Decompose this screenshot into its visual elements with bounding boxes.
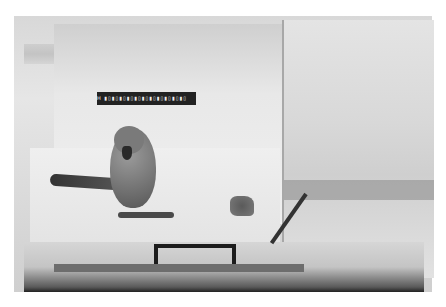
photograph: H ▮▯▮▯▮▯▮▯▮▯▮▯▮▯▮▯▮▯▮▯▮▯ Grayscale photo… bbox=[14, 16, 432, 292]
scale-ruler: H ▮▯▮▯▮▯▮▯▮▯▮▯▮▯▮▯▮▯▮▯▮▯ bbox=[97, 92, 196, 105]
parrot-feet bbox=[118, 212, 174, 218]
base-clamp bbox=[154, 244, 236, 264]
food-item bbox=[230, 196, 254, 216]
right-chamber-shadow bbox=[284, 180, 434, 200]
right-chamber bbox=[282, 20, 434, 278]
parrot-beak bbox=[122, 146, 132, 160]
base-rail bbox=[54, 264, 304, 272]
